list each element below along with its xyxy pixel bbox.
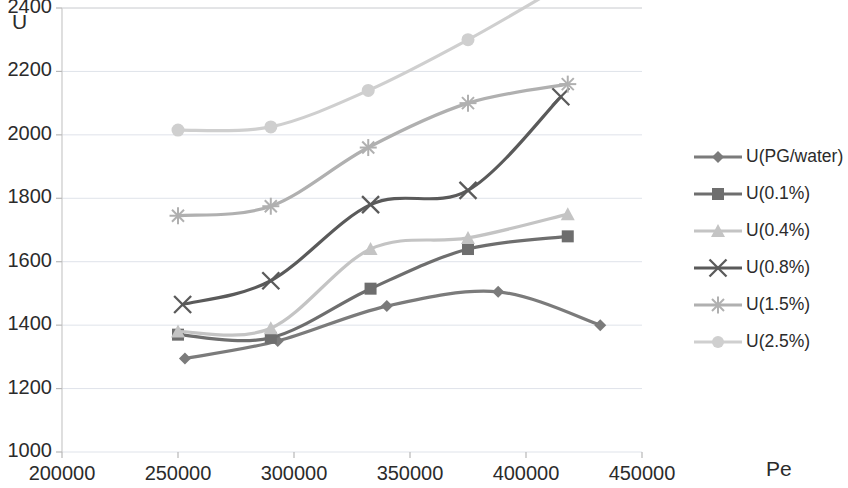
triangle-marker	[264, 321, 278, 334]
triangle-icon	[692, 221, 744, 241]
y-tick-label: 1400	[0, 312, 52, 335]
square-marker	[462, 243, 474, 255]
legend-item-label: U(0.1%)	[746, 183, 810, 204]
diamond-marker	[179, 352, 191, 364]
series-u-0-4	[171, 207, 575, 337]
legend-item[interactable]: U(1.5%)	[692, 286, 848, 323]
diamond-marker	[712, 151, 724, 163]
x-tick-label: 200000	[29, 462, 96, 485]
star-marker	[710, 296, 727, 313]
star-marker	[460, 95, 477, 112]
legend-item-label: U(PG/water)	[746, 146, 843, 167]
square-icon	[692, 184, 744, 204]
chart-legend: U(PG/water)U(0.1%)U(0.4%)U(0.8%)U(1.5%)U…	[692, 138, 848, 360]
gridlines	[62, 8, 642, 452]
diamond-marker	[594, 319, 606, 331]
star-marker	[559, 76, 576, 93]
star-icon	[692, 295, 744, 315]
x-tick-label: 450000	[609, 462, 676, 485]
cross-marker	[460, 182, 477, 199]
square-marker	[365, 283, 377, 295]
x-tick-label: 250000	[145, 462, 212, 485]
square-marker	[562, 230, 574, 242]
triangle-marker	[561, 207, 575, 220]
x-tick-label: 300000	[261, 462, 328, 485]
legend-item[interactable]: U(0.8%)	[692, 249, 848, 286]
x-axis-title: Pe	[766, 457, 792, 481]
x-tick-label: 350000	[377, 462, 444, 485]
legend-item-label: U(0.8%)	[746, 257, 810, 278]
legend-item-label: U(0.4%)	[746, 220, 810, 241]
y-tick-label: 2000	[0, 122, 52, 145]
y-tick-label: 2400	[0, 0, 52, 18]
diamond-icon	[692, 147, 744, 167]
diamond-marker	[492, 286, 504, 298]
circle-marker	[712, 336, 724, 348]
legend-item[interactable]: U(0.4%)	[692, 212, 848, 249]
diamond-marker	[381, 300, 393, 312]
circle-icon	[692, 332, 744, 352]
legend-item[interactable]: U(PG/water)	[692, 138, 848, 175]
legend-item-label: U(1.5%)	[746, 294, 810, 315]
cross-marker	[552, 88, 569, 105]
circle-marker	[362, 84, 375, 97]
circle-marker	[264, 120, 277, 133]
y-tick-label: 1800	[0, 185, 52, 208]
star-marker	[170, 207, 187, 224]
y-tick-label: 1000	[0, 439, 52, 462]
legend-item-label: U(2.5%)	[746, 331, 810, 352]
chart-container: U Pe 10001200140016001800200022002400 20…	[0, 0, 848, 488]
legend-item[interactable]: U(2.5%)	[692, 323, 848, 360]
star-marker	[360, 139, 377, 156]
legend-item[interactable]: U(0.1%)	[692, 175, 848, 212]
cross-icon	[692, 258, 744, 278]
square-marker	[712, 188, 724, 200]
circle-marker	[462, 33, 475, 46]
x-tick-label: 400000	[493, 462, 560, 485]
series-u-0-8	[174, 88, 569, 313]
y-tick-label: 2200	[0, 58, 52, 81]
star-marker	[262, 198, 279, 215]
y-tick-label: 1600	[0, 249, 52, 272]
axis-lines	[56, 8, 642, 458]
cross-marker	[262, 272, 279, 289]
y-tick-label: 1200	[0, 376, 52, 399]
circle-marker	[172, 124, 185, 137]
series-u-2-5	[172, 0, 563, 137]
data-series-layer	[170, 0, 607, 364]
